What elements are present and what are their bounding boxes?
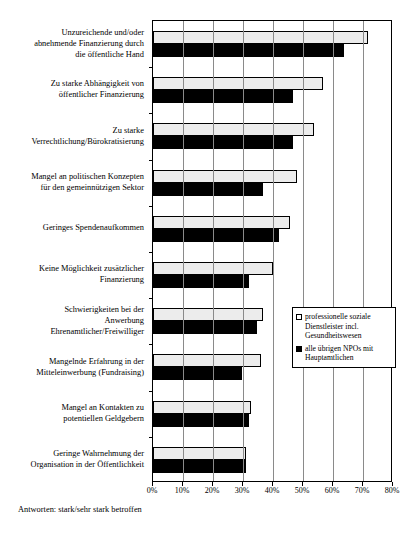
category-label-line: Unzureichende und/oder <box>0 27 144 38</box>
bars-layer <box>153 21 391 481</box>
bar-group <box>153 391 391 437</box>
category-label-line: Anwerbung <box>0 315 144 326</box>
bar-series-2 <box>153 229 279 242</box>
category-tick <box>149 113 153 114</box>
category-label: Geringe Wahrnehmung derOrganisation in d… <box>0 448 144 470</box>
category-tick <box>149 206 153 207</box>
category-label-line: potentiellen Geldgebern <box>0 413 144 424</box>
bar-group <box>153 437 391 483</box>
category-label-line: Schwierigkeiten bei der <box>0 304 144 315</box>
legend-swatch-icon <box>296 314 302 320</box>
legend-label-line: Gesundheitswesen <box>305 331 371 341</box>
gridline-50pct <box>303 21 304 481</box>
category-tick <box>149 437 153 438</box>
category-tick <box>149 344 153 345</box>
gridline-20pct <box>213 21 214 481</box>
bar-series-2 <box>153 183 263 196</box>
category-label: Geringes Spendenaufkommen <box>0 222 144 233</box>
plot-area <box>152 20 392 482</box>
legend-label: alle übrigen NPOs mitHauptamtlichen <box>305 344 373 363</box>
bar-series-1 <box>153 401 251 414</box>
category-label-line: Ehrenamtlicher/Freiwilliger <box>0 326 144 337</box>
category-label-line: Mangel an Kontakten zu <box>0 402 144 413</box>
chart-footnote: Antworten: stark/sehr stark betroffen <box>18 505 142 514</box>
chart-legend: professionelle sozialeDienstleister incl… <box>292 307 396 368</box>
bar-series-2 <box>153 44 344 57</box>
category-label: Zu starkeVerrechtlichung/Bürokratisierun… <box>0 125 144 147</box>
gridline-60pct <box>333 21 334 481</box>
category-label: Schwierigkeiten bei derAnwerbungEhrenamt… <box>0 304 144 337</box>
bar-series-1 <box>153 170 297 183</box>
category-label-line: Mangel an politischen Konzepten <box>0 171 144 182</box>
category-label-line: Mangelnde Erfahrung in der <box>0 356 144 367</box>
bar-group <box>153 113 391 159</box>
category-label-line: für den gemeinnützigen Sektor <box>0 182 144 193</box>
legend-swatch-icon <box>296 346 302 352</box>
category-label-line: Organisation in der Öffentlichkeit <box>0 459 144 470</box>
legend-label: professionelle sozialeDienstleister incl… <box>305 312 371 341</box>
bar-series-1 <box>153 123 314 136</box>
bar-series-2 <box>153 460 246 473</box>
x-tick-label: 80% <box>372 486 412 495</box>
legend-item: professionelle sozialeDienstleister incl… <box>296 312 392 341</box>
bar-series-2 <box>153 321 257 334</box>
category-label: Mangelnde Erfahrung in derMitteleinwerbu… <box>0 356 144 378</box>
category-label-line: Geringe Wahrnehmung der <box>0 448 144 459</box>
bar-series-1 <box>153 308 263 321</box>
bar-series-1 <box>153 354 261 367</box>
category-label: Mangel an Kontakten zupotentiellen Geldg… <box>0 402 144 424</box>
bar-series-1 <box>153 31 368 44</box>
bar-group <box>153 67 391 113</box>
category-label: Mangel an politischen Konzeptenfür den g… <box>0 171 144 193</box>
bar-series-1 <box>153 216 290 229</box>
category-label-line: Geringes Spendenaufkommen <box>0 222 144 233</box>
bar-series-2 <box>153 90 293 103</box>
bar-group <box>153 160 391 206</box>
bar-group <box>153 21 391 67</box>
category-label-line: Keine Möglichkeit zusätzlicher <box>0 263 144 274</box>
category-tick <box>149 391 153 392</box>
legend-label-line: Dienstleister incl. <box>305 322 371 332</box>
category-label-line: öffentlicher Finanzierung <box>0 89 144 100</box>
gridline-70pct <box>363 21 364 481</box>
bar-series-1 <box>153 77 323 90</box>
bar-group <box>153 206 391 252</box>
bar-group <box>153 252 391 298</box>
gridline-40pct <box>273 21 274 481</box>
category-label: Zu starke Abhängigkeit vonöffentlicher F… <box>0 78 144 100</box>
bar-series-2 <box>153 275 249 288</box>
bar-series-2 <box>153 414 249 427</box>
bar-series-2 <box>153 367 242 380</box>
category-tick <box>149 298 153 299</box>
category-tick <box>149 252 153 253</box>
bar-chart: Unzureichende und/oderabnehmende Finanzi… <box>0 0 420 544</box>
category-label: Keine Möglichkeit zusätzlicherFinanzieru… <box>0 263 144 285</box>
bar-series-2 <box>153 136 293 149</box>
category-label-line: Verrechtlichung/Bürokratisierung <box>0 136 144 147</box>
category-label-line: Zu starke Abhängigkeit von <box>0 78 144 89</box>
category-label-line: die öffentliche Hand <box>0 49 144 60</box>
bar-series-1 <box>153 447 246 460</box>
category-label-line: Mitteleinwerbung (Fundraising) <box>0 367 144 378</box>
legend-item: alle übrigen NPOs mitHauptamtlichen <box>296 344 392 363</box>
legend-label-line: professionelle soziale <box>305 312 371 322</box>
category-label-line: abnehmende Finanzierung durch <box>0 38 144 49</box>
legend-label-line: Hauptamtlichen <box>305 353 373 363</box>
category-tick <box>149 160 153 161</box>
category-label-line: Finanzierung <box>0 274 144 285</box>
gridline-10pct <box>183 21 184 481</box>
legend-label-line: alle übrigen NPOs mit <box>305 344 373 354</box>
gridline-30pct <box>243 21 244 481</box>
category-label: Unzureichende und/oderabnehmende Finanzi… <box>0 27 144 60</box>
category-label-line: Zu starke <box>0 125 144 136</box>
category-axis-labels: Unzureichende und/oderabnehmende Finanzi… <box>0 20 150 482</box>
category-tick <box>149 67 153 68</box>
